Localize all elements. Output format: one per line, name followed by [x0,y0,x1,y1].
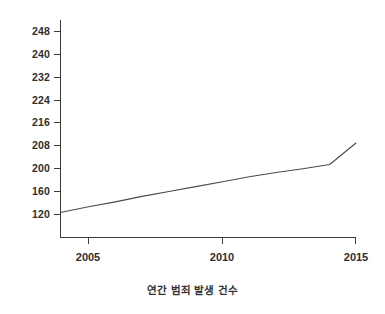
chart-title: 연간 범죄 발생 건수 [0,282,385,297]
line-chart: 248 240 232 224 216 208 200 160 120 2005… [0,0,385,314]
x-axis-label-2015: 2015 [344,252,368,263]
x-axis-label-2005: 2005 [76,252,100,263]
x-axis-label-2010: 2010 [210,252,234,263]
x-axis-tick-labels: 2005 2010 2015 [0,0,385,314]
